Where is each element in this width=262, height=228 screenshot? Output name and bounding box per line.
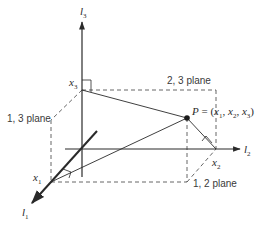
right-angle-markers xyxy=(63,80,212,178)
coordinate-projection-diagram: l3 l2 l1 x3 x1 x2 P = (x1, x2, x3) 2, 3 … xyxy=(0,0,262,228)
label-x2: x2 xyxy=(211,156,221,171)
label-l3: l3 xyxy=(80,5,87,20)
label-plane-12: 1, 2 plane xyxy=(193,178,237,189)
line-p-to-x3 xyxy=(82,90,187,118)
point-p-dot xyxy=(184,115,190,121)
label-x1: x1 xyxy=(32,171,42,186)
projection-lines xyxy=(51,90,216,182)
label-x3: x3 xyxy=(68,76,78,91)
axis-l1 xyxy=(32,131,97,203)
label-l1: l1 xyxy=(22,206,29,221)
plane-13-diagonal-edge xyxy=(51,90,82,120)
label-plane-23: 2, 3 plane xyxy=(167,75,211,86)
label-l2: l2 xyxy=(244,143,251,158)
label-plane-13: 1, 3 plane xyxy=(7,113,51,124)
line-p-to-x1 xyxy=(51,118,187,182)
label-point-p: P = (x1, x2, x3) xyxy=(191,105,254,120)
line-p-to-x2 xyxy=(187,118,216,149)
